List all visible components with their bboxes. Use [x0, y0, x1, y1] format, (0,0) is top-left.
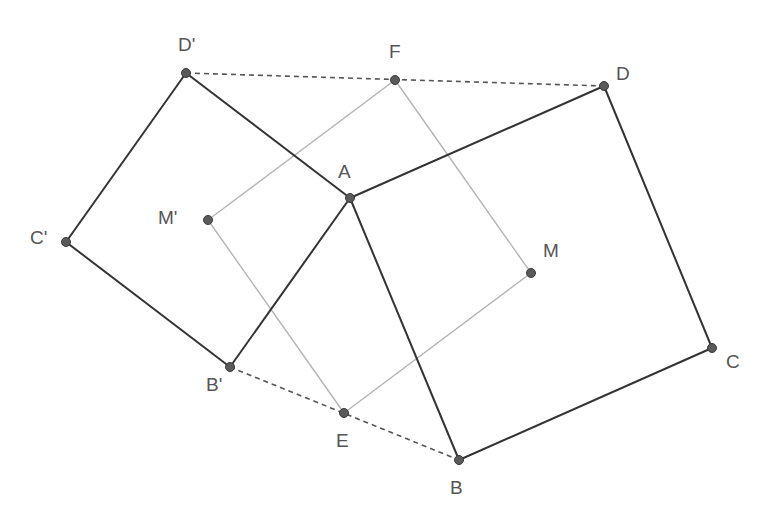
- point-m-prime[interactable]: [204, 216, 213, 225]
- point-m[interactable]: [527, 269, 536, 278]
- label-d: D: [616, 64, 630, 83]
- point-d-prime[interactable]: [182, 69, 191, 78]
- label-b-prime: B': [206, 375, 222, 394]
- segment-f-m-prime: [208, 80, 395, 220]
- segment-e-m: [344, 273, 531, 413]
- segment-d-prime-a: [186, 73, 350, 198]
- points: [62, 69, 717, 465]
- point-a[interactable]: [346, 194, 355, 203]
- segment-a-b-prime: [230, 198, 350, 367]
- segment-d-a: [350, 86, 604, 198]
- label-e: E: [336, 431, 349, 450]
- label-d-prime: D': [178, 35, 195, 54]
- label-b: B: [450, 478, 463, 497]
- label-f: F: [389, 42, 401, 61]
- label-m-prime: M': [158, 208, 177, 227]
- outer-squares: [66, 73, 712, 460]
- point-d[interactable]: [600, 82, 609, 91]
- label-m: M: [543, 241, 559, 260]
- segment-m-f: [395, 80, 531, 273]
- label-a: A: [338, 162, 351, 181]
- point-c[interactable]: [708, 344, 717, 353]
- dashed-connector-lines: [186, 73, 604, 460]
- segment-b-prime-c-prime: [66, 242, 230, 367]
- point-b-prime[interactable]: [226, 363, 235, 372]
- point-f[interactable]: [391, 76, 400, 85]
- label-c: C: [726, 352, 740, 371]
- label-c-prime: C': [30, 228, 47, 247]
- segment-c-d: [604, 86, 712, 348]
- point-b[interactable]: [455, 456, 464, 465]
- segment-m-prime-e: [208, 220, 344, 413]
- geometry-canvas: [0, 0, 765, 532]
- point-c-prime[interactable]: [62, 238, 71, 247]
- point-e[interactable]: [340, 409, 349, 418]
- segment-b-c: [459, 348, 712, 460]
- segment-a-b: [350, 198, 459, 460]
